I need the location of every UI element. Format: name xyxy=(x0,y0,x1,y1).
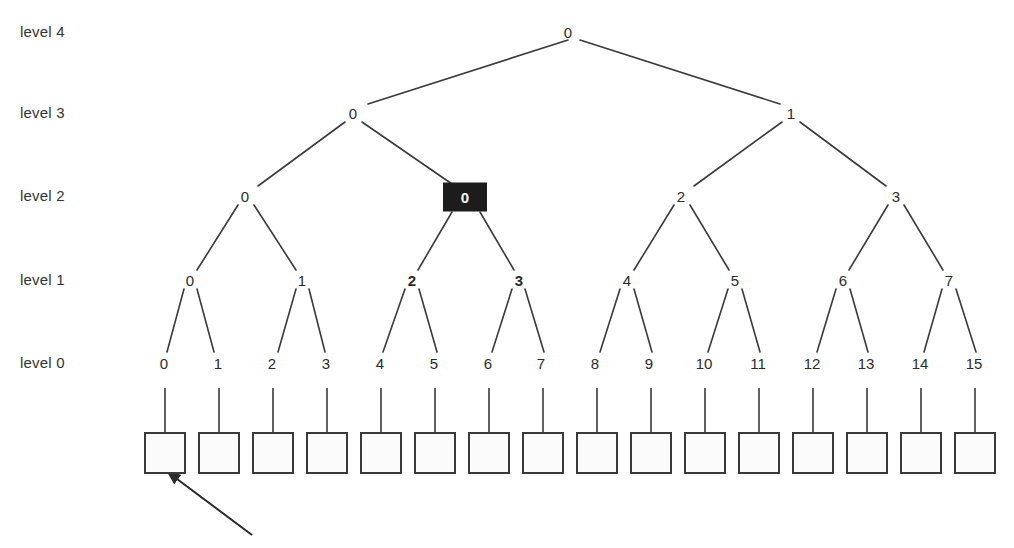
tree-edge xyxy=(480,212,514,270)
tree-node-level4-0: 0 xyxy=(564,24,572,41)
tree-edge xyxy=(849,205,888,270)
leaf-box xyxy=(900,432,942,474)
tree-node-level0-14: 14 xyxy=(912,355,929,372)
leaf-box xyxy=(252,432,294,474)
tree-node-level1-0: 0 xyxy=(186,272,194,289)
leaf-box xyxy=(198,432,240,474)
level-label-2: level 2 xyxy=(20,187,65,204)
annotation-arrow-line xyxy=(169,473,252,535)
tree-node-level1-4: 4 xyxy=(623,272,631,289)
tree-node-level0-3: 3 xyxy=(322,355,330,372)
tree-edge xyxy=(258,122,345,186)
tree-edge xyxy=(742,289,760,352)
level-label-3: level 1 xyxy=(20,271,65,288)
leaf-box xyxy=(576,432,618,474)
diagram-canvas: level 4level 3level 2level 1level 0 0010… xyxy=(0,0,1014,548)
tree-node-level0-7: 7 xyxy=(537,355,545,372)
tree-node-level0-13: 13 xyxy=(858,355,875,372)
tree-edge xyxy=(362,122,452,184)
tree-edge xyxy=(850,289,868,352)
tree-edge xyxy=(600,289,620,352)
tree-edge xyxy=(419,289,437,352)
tree-node-level0-8: 8 xyxy=(591,355,599,372)
tree-node-level3-0: 0 xyxy=(349,105,357,122)
tree-edge xyxy=(904,205,943,270)
level-label-4: level 0 xyxy=(20,354,65,371)
tree-edge xyxy=(924,289,942,352)
tree-edge xyxy=(817,289,836,352)
tree-edge xyxy=(418,212,452,270)
leaf-box xyxy=(792,432,834,474)
tree-node-level2-3: 3 xyxy=(892,188,900,205)
tree-edge xyxy=(278,289,296,352)
tree-edge xyxy=(956,289,976,352)
level-label-1: level 3 xyxy=(20,104,65,121)
tree-node-level0-2: 2 xyxy=(268,355,276,372)
tree-node-level1-1: 1 xyxy=(298,272,306,289)
tree-edge xyxy=(254,205,296,270)
tree-edge xyxy=(634,289,652,352)
tree-edge xyxy=(197,205,238,270)
leaf-box xyxy=(360,432,402,474)
leaf-box xyxy=(306,432,348,474)
tree-edge xyxy=(197,289,214,352)
tree-node-level0-6: 6 xyxy=(484,355,492,372)
leaf-box xyxy=(414,432,456,474)
level-label-0: level 4 xyxy=(20,23,65,40)
tree-edge xyxy=(690,205,729,270)
tree-node-level1-5: 5 xyxy=(731,272,739,289)
tree-edge xyxy=(383,289,405,352)
tree-node-level0-11: 11 xyxy=(750,355,766,372)
tree-edge xyxy=(525,289,544,352)
tree-edge xyxy=(708,289,728,352)
tree-node-level0-5: 5 xyxy=(430,355,438,372)
leaf-box xyxy=(144,432,186,474)
tree-edge xyxy=(800,122,886,186)
tree-edge xyxy=(634,205,674,270)
leaf-box xyxy=(738,432,780,474)
tree-node-level0-15: 15 xyxy=(966,355,983,372)
leaf-box xyxy=(630,432,672,474)
leaf-stem-group xyxy=(165,388,975,432)
tree-edge xyxy=(694,122,782,186)
tree-edge xyxy=(492,289,512,352)
leaf-box xyxy=(468,432,510,474)
tree-node-level0-10: 10 xyxy=(696,355,713,372)
tree-node-level0-9: 9 xyxy=(645,355,653,372)
tree-node-level2-0: 0 xyxy=(241,188,249,205)
tree-edge xyxy=(368,40,568,104)
tree-node-level3-1: 1 xyxy=(787,105,795,122)
tree-edge xyxy=(309,289,325,352)
tree-node-level1-2: 2 xyxy=(408,272,416,289)
leaf-box xyxy=(954,432,996,474)
tree-node-level1-7: 7 xyxy=(945,272,953,289)
tree-node-level1-6: 6 xyxy=(839,272,847,289)
tree-node-level0-4: 4 xyxy=(376,355,384,372)
leaf-box xyxy=(846,432,888,474)
tree-edge xyxy=(580,40,780,104)
tree-node-level0-0: 0 xyxy=(160,355,168,372)
tree-edge-group xyxy=(167,40,976,352)
tree-edge xyxy=(167,289,184,352)
leaf-box xyxy=(684,432,726,474)
tree-node-highlighted: 0 xyxy=(443,183,487,212)
tree-node-level0-12: 12 xyxy=(804,355,821,372)
annotation-arrow xyxy=(169,473,252,535)
tree-node-level0-1: 1 xyxy=(214,355,222,372)
tree-node-level2-2: 2 xyxy=(677,188,685,205)
tree-node-level1-3: 3 xyxy=(515,272,523,289)
leaf-box xyxy=(522,432,564,474)
